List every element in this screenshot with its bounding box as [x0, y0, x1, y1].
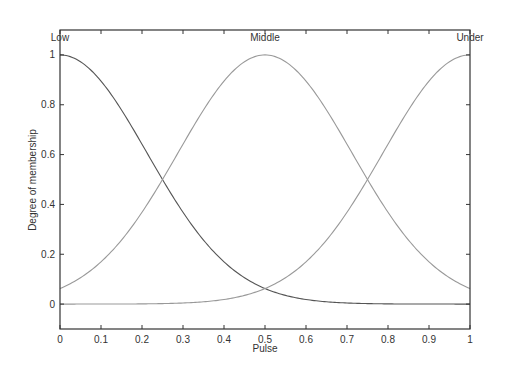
curve-label-middle: Middle	[250, 32, 280, 43]
curve-label-low: Low	[51, 32, 70, 43]
y-tick-label: 0	[49, 299, 55, 310]
x-tick-label: 0.2	[135, 334, 149, 345]
y-tick-label: 0.2	[41, 249, 55, 260]
y-tick-label: 0.4	[41, 199, 55, 210]
x-axis-label: Pulse	[252, 343, 277, 354]
x-tick-label: 0.6	[299, 334, 313, 345]
x-tick-label: 1	[467, 334, 473, 345]
plot-frame	[60, 30, 470, 329]
y-axis-ticks: 00.20.40.60.81	[41, 49, 470, 309]
x-axis-ticks: 00.10.20.30.40.50.60.70.80.91	[57, 30, 473, 345]
curves	[60, 55, 470, 304]
membership-function-chart: 00.10.20.30.40.50.60.70.80.91 00.20.40.6…	[0, 0, 506, 375]
x-tick-label: 0.4	[217, 334, 231, 345]
curve-under	[60, 55, 470, 304]
x-tick-label: 0	[57, 334, 63, 345]
y-tick-label: 0.6	[41, 149, 55, 160]
curve-middle	[60, 55, 470, 289]
x-tick-label: 0.3	[176, 334, 190, 345]
x-tick-label: 0.7	[340, 334, 354, 345]
curve-low	[60, 55, 470, 304]
x-tick-label: 0.1	[94, 334, 108, 345]
x-tick-label: 0.8	[381, 334, 395, 345]
y-axis-label: Degree of membership	[27, 129, 38, 231]
y-tick-label: 1	[49, 49, 55, 60]
curve-label-under: Under	[456, 32, 484, 43]
curve-labels: LowMiddleUnder	[51, 32, 484, 43]
y-tick-label: 0.8	[41, 99, 55, 110]
x-tick-label: 0.9	[422, 334, 436, 345]
